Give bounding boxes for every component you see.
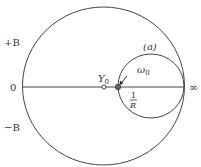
label-one-over-r-num: 1 [131, 91, 136, 100]
circle-a [118, 54, 184, 118]
label-zero: 0 [10, 82, 16, 93]
label-minus-b: −B [4, 122, 20, 133]
label-curve-a: (a) [143, 41, 157, 52]
diagram-canvas: +B −B 0 ∞ Y0 ω0 (a) 1 R [0, 0, 201, 167]
label-plus-b: +B [4, 37, 20, 48]
label-omega0: ω0 [137, 64, 150, 77]
label-one-over-r-den: R [129, 101, 136, 110]
label-infinity: ∞ [189, 81, 198, 94]
label-y0: Y0 [98, 73, 109, 86]
